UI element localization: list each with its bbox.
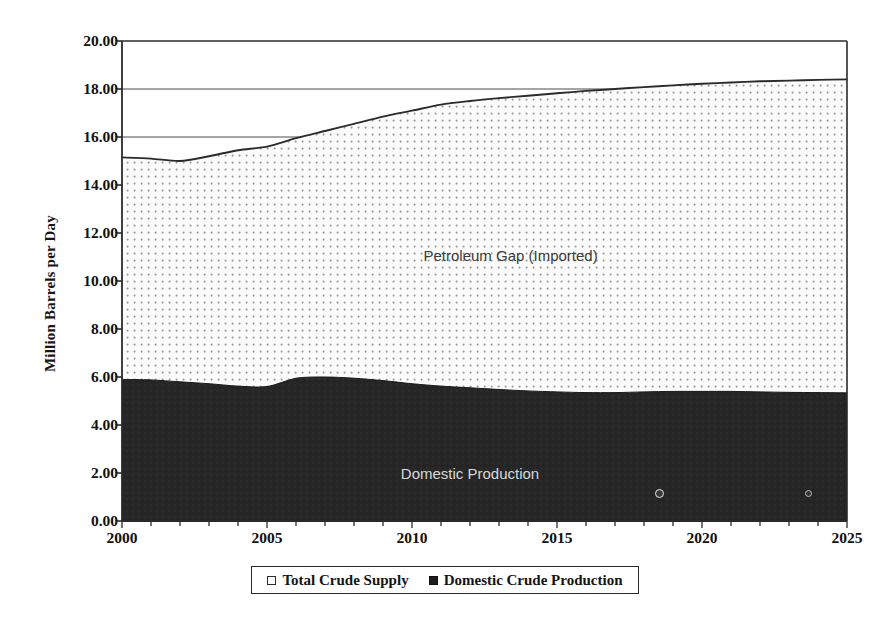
open-square-icon — [267, 576, 276, 585]
annotation-domestic-production: Domestic Production — [401, 465, 539, 482]
legend-label-domestic-crude-production: Domestic Crude Production — [444, 572, 623, 589]
petroleum-gap-chart: Million Barrels per Day 0.002.004.006.00… — [0, 0, 890, 626]
annotation-petroleum-gap: Petroleum Gap (Imported) — [423, 246, 597, 263]
chart-legend: Total Crude Supply Domestic Crude Produc… — [251, 566, 639, 594]
filled-square-icon — [429, 576, 438, 585]
plot-area — [0, 0, 890, 626]
legend-entry-domestic-crude-production: Domestic Crude Production — [429, 572, 623, 589]
domestic-crude-production-area — [122, 377, 847, 521]
legend-label-total-crude-supply: Total Crude Supply — [282, 572, 408, 589]
legend-entry-total-crude-supply: Total Crude Supply — [267, 572, 408, 589]
